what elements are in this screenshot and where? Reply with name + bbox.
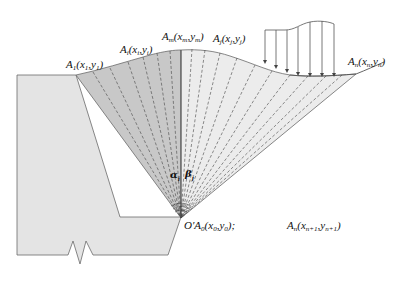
- label-am: Am(xm,ym): [162, 31, 204, 44]
- right-fan-region: [181, 50, 356, 218]
- label-a1: A1(x1,y1): [66, 59, 103, 72]
- label-ai: Ai(xi,yi): [120, 44, 152, 57]
- label-aj: Aj(xj,yj): [213, 33, 245, 46]
- label-beta: βj: [185, 169, 194, 181]
- label-an: An(xn,yn): [348, 56, 385, 69]
- label-an-plus-1: An(xn+1,yn+1): [287, 220, 341, 233]
- label-origin: O′A0(x0,y0);: [184, 220, 235, 233]
- label-alpha: αi: [170, 170, 180, 182]
